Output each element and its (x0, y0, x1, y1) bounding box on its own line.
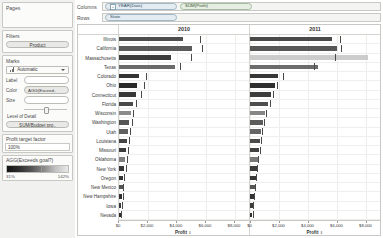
bar-row[interactable] (119, 165, 249, 174)
bar-mark[interactable] (119, 185, 123, 190)
bar-mark[interactable] (119, 83, 137, 88)
bar-row[interactable] (250, 54, 380, 63)
filter-pill-product[interactable]: Product (6, 41, 69, 48)
bar-row[interactable] (119, 202, 249, 211)
row-header-cell[interactable]: Colorado (78, 72, 118, 81)
pane-2010[interactable] (119, 35, 249, 220)
bar-mark[interactable] (119, 111, 131, 116)
pane-2011[interactable] (249, 35, 380, 220)
row-header-cell[interactable]: Louisiana (78, 137, 118, 146)
size-slider[interactable] (24, 106, 67, 112)
row-header-cell[interactable]: Iowa (78, 202, 118, 211)
bar-mark[interactable] (119, 157, 125, 162)
row-header-cell[interactable]: Missouri (78, 146, 118, 155)
bar-row[interactable] (119, 44, 249, 53)
bar-mark[interactable] (250, 185, 255, 190)
bar-mark[interactable] (119, 102, 133, 107)
bar-mark[interactable] (250, 120, 263, 125)
bar-mark[interactable] (250, 166, 257, 171)
bar-mark[interactable] (119, 129, 128, 134)
bar-row[interactable] (119, 109, 249, 118)
bar-row[interactable] (119, 91, 249, 100)
x-axis-2010[interactable]: $0$2,000$4,000$6,000$8,000Profit ⇟ (118, 220, 249, 235)
bar-row[interactable] (119, 54, 249, 63)
bar-row[interactable] (119, 81, 249, 90)
descending-sort-icon[interactable]: ⇟ (320, 230, 323, 235)
bar-mark[interactable] (250, 46, 337, 51)
row-header-cell[interactable]: Oregon (78, 174, 118, 183)
row-header-states[interactable]: IllinoisCaliforniaMassachusettsTexasColo… (78, 35, 119, 220)
bar-row[interactable] (250, 44, 380, 53)
bar-row[interactable] (250, 137, 380, 146)
row-header-cell[interactable]: New York (78, 165, 118, 174)
bar-row[interactable] (250, 165, 380, 174)
bar-row[interactable] (119, 72, 249, 81)
bar-row[interactable] (250, 81, 380, 90)
bar-row[interactable] (250, 118, 380, 127)
bar-row[interactable] (250, 192, 380, 201)
bar-mark[interactable] (119, 46, 192, 51)
bar-row[interactable] (119, 118, 249, 127)
bar-mark[interactable] (250, 148, 259, 153)
bar-row[interactable] (250, 183, 380, 192)
bar-mark[interactable] (119, 37, 183, 42)
bar-mark[interactable] (119, 65, 175, 70)
columns-shelf-dropzone[interactable]: + YEAR(Date) SUM(Profit) (102, 2, 381, 11)
bar-mark[interactable] (119, 74, 139, 79)
row-header-cell[interactable]: Massachusetts (78, 54, 118, 63)
bar-mark[interactable] (250, 74, 278, 79)
bar-mark[interactable] (119, 176, 123, 181)
row-header-cell[interactable]: Texas (78, 63, 118, 72)
bar-mark[interactable] (250, 176, 256, 181)
rows-pill-state[interactable]: State (105, 14, 177, 21)
panel-header-2011[interactable]: 2011 (249, 25, 380, 34)
row-header-cell[interactable]: Oklahoma (78, 155, 118, 164)
bar-row[interactable] (119, 35, 249, 44)
bar-row[interactable] (119, 137, 249, 146)
bar-row[interactable] (119, 211, 249, 220)
x-axis-title[interactable]: Profit ⇟ (250, 230, 381, 235)
row-header-cell[interactable]: New Hampshire (78, 192, 118, 201)
rows-shelf-dropzone[interactable]: State (102, 13, 381, 22)
columns-pill-year-date[interactable]: + YEAR(Date) (105, 3, 177, 10)
bar-mark[interactable] (250, 102, 268, 107)
bar-mark[interactable] (250, 55, 368, 60)
bar-row[interactable] (119, 183, 249, 192)
level-of-detail-pill[interactable]: SUM(Budget pro.. (6, 121, 69, 128)
bar-mark[interactable] (250, 111, 265, 116)
bar-row[interactable] (119, 192, 249, 201)
row-header-cell[interactable]: Florida (78, 100, 118, 109)
x-axis-title[interactable]: Profit ⇟ (118, 230, 249, 235)
bar-mark[interactable] (119, 166, 124, 171)
descending-sort-icon[interactable]: ⇟ (188, 230, 191, 235)
bar-row[interactable] (119, 155, 249, 164)
x-axis-2011[interactable]: $0$2,000$4,000$6,000$8,000Profit ⇟ (249, 220, 381, 235)
bar-row[interactable] (250, 63, 380, 72)
bar-mark[interactable] (250, 37, 332, 42)
row-header-cell[interactable]: New Mexico (78, 183, 118, 192)
row-header-cell[interactable]: California (78, 44, 118, 53)
chevron-down-icon[interactable] (61, 69, 65, 71)
filters-shelf-dropzone[interactable]: Product (3, 40, 72, 51)
marks-size-slot[interactable] (24, 96, 69, 104)
bar-mark[interactable] (250, 129, 261, 134)
bar-mark[interactable] (250, 65, 318, 70)
bar-row[interactable] (250, 128, 380, 137)
bar-row[interactable] (119, 63, 249, 72)
size-slider-handle[interactable] (44, 107, 49, 114)
columns-pill-sum-profit[interactable]: SUM(Profit) (180, 3, 252, 10)
bar-mark[interactable] (119, 139, 127, 144)
row-header-cell[interactable]: Ohio (78, 81, 118, 90)
bar-row[interactable] (250, 211, 380, 220)
mark-type-selector[interactable]: Automatic (6, 66, 69, 74)
bar-row[interactable] (250, 100, 380, 109)
bar-row[interactable] (119, 174, 249, 183)
panel-header-2010[interactable]: 2010 (119, 25, 249, 34)
bar-row[interactable] (119, 100, 249, 109)
bar-mark[interactable] (119, 148, 126, 153)
bar-mark[interactable] (119, 120, 129, 125)
bar-row[interactable] (250, 202, 380, 211)
row-header-cell[interactable]: Washington (78, 118, 118, 127)
pages-shelf-dropzone[interactable] (3, 12, 72, 32)
bar-mark[interactable] (119, 194, 122, 199)
